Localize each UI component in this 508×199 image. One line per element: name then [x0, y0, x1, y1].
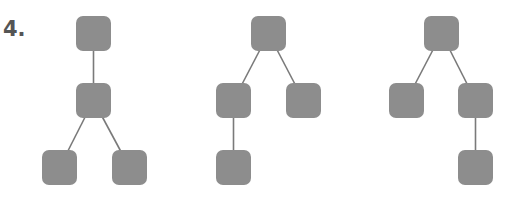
tree-2-node-d — [216, 150, 251, 185]
tree-3-node-d — [458, 150, 493, 185]
tree-1-node-b — [76, 83, 111, 118]
tree-3-node-a — [424, 16, 459, 51]
nodes-layer — [42, 16, 493, 185]
tree-3-node-b — [389, 83, 424, 118]
trees-svg — [0, 0, 508, 199]
tree-2-node-c — [286, 83, 321, 118]
tree-2-node-b — [216, 83, 251, 118]
tree-1-node-c — [42, 150, 77, 185]
tree-1-node-a — [76, 16, 111, 51]
tree-1-node-d — [112, 150, 147, 185]
tree-3-node-c — [458, 83, 493, 118]
tree-diagram-canvas: 4. — [0, 0, 508, 199]
tree-2-node-a — [251, 16, 286, 51]
